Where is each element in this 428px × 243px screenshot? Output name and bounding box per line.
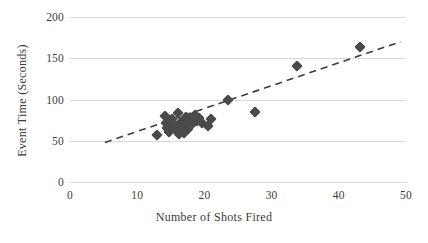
plot-area <box>70 17 406 182</box>
x-tick-label: 40 <box>333 189 345 201</box>
data-point <box>222 94 233 105</box>
y-tick-label: 150 <box>46 52 64 64</box>
gridline <box>70 141 406 142</box>
data-point <box>355 41 366 52</box>
x-axis-title: Number of Shots Fired <box>0 210 428 225</box>
gridline <box>70 100 406 101</box>
gridline <box>70 58 406 59</box>
data-point <box>249 106 260 117</box>
x-tick-label: 0 <box>67 189 73 201</box>
scatter-chart-figure: 050100150200 01020304050 Number of Shots… <box>0 0 428 243</box>
data-point <box>291 60 302 71</box>
y-tick-label: 0 <box>58 176 64 188</box>
x-tick-label: 30 <box>266 189 278 201</box>
gridline <box>70 182 406 183</box>
trendline-segment <box>105 42 401 143</box>
x-tick-label: 20 <box>198 189 210 201</box>
y-tick-label: 100 <box>46 94 64 106</box>
x-axis-tick-labels: 01020304050 <box>0 189 428 207</box>
y-tick-label: 50 <box>52 135 64 147</box>
x-tick-label: 10 <box>131 189 143 201</box>
y-axis-title: Event Time (Seconds) <box>15 31 30 171</box>
gridline <box>70 17 406 18</box>
y-tick-label: 200 <box>46 11 64 23</box>
data-point <box>152 129 163 140</box>
x-tick-label: 50 <box>400 189 412 201</box>
